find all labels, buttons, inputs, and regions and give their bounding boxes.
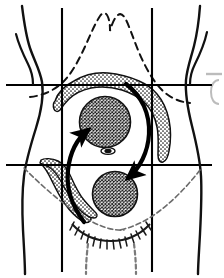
anatomy-illustration: Abdominal anatomy diagram	[0, 0, 224, 278]
anatomy-figure: Abdominal anatomy diagram	[0, 0, 224, 278]
upper-mass	[80, 97, 131, 148]
